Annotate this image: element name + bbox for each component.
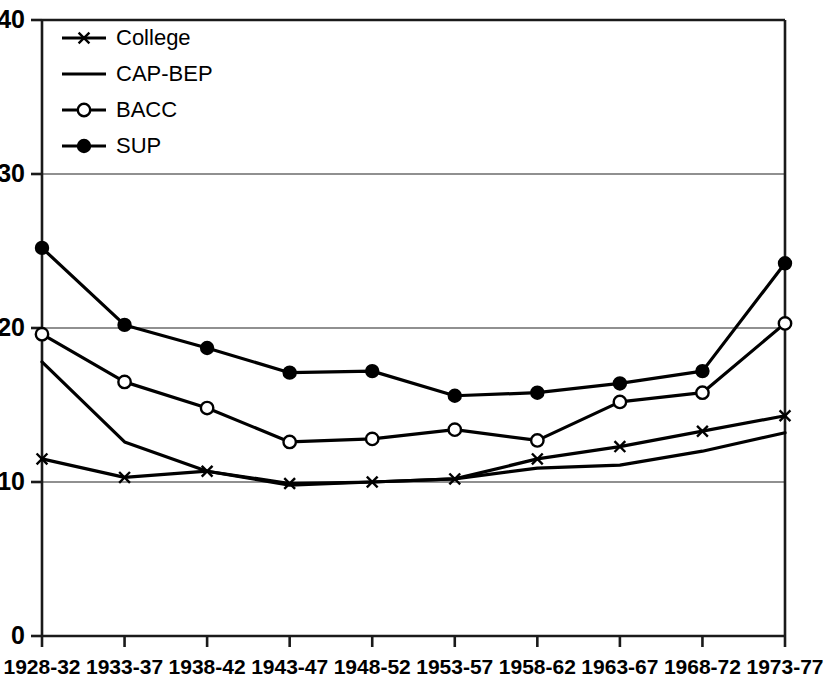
- x-tick-label-6: 1958-62: [499, 655, 576, 678]
- data-point-1: [118, 319, 130, 331]
- x-tick-label-0: 1928-32: [3, 655, 80, 678]
- data-point-4: [366, 433, 378, 445]
- legend-label: CAP-BEP: [116, 61, 213, 86]
- data-point-1: [118, 376, 130, 388]
- x-tick-label-9: 1973-77: [746, 655, 823, 678]
- x-tick-label-5: 1953-57: [416, 655, 493, 678]
- data-point-3: [283, 436, 295, 448]
- legend-label: College: [116, 25, 191, 50]
- data-point-5: [449, 390, 461, 402]
- line-chart: 010203040 1928-321933-371938-421943-4719…: [0, 0, 824, 681]
- y-tick-label-20: 20: [0, 313, 25, 341]
- data-point-5: [449, 423, 461, 435]
- data-point-2: [201, 342, 213, 354]
- data-point-6: [531, 434, 543, 446]
- x-tick-label-1: 1933-37: [86, 655, 163, 678]
- data-point-0: [36, 328, 48, 340]
- y-tick-label-30: 30: [0, 159, 25, 187]
- data-point-8: [696, 386, 708, 398]
- data-point-9: [779, 257, 791, 269]
- x-tick-label-7: 1963-67: [581, 655, 658, 678]
- legend-marker: [78, 140, 90, 152]
- data-point-7: [614, 396, 626, 408]
- legend-label: SUP: [116, 133, 161, 158]
- data-point-9: [779, 317, 791, 329]
- data-point-4: [366, 365, 378, 377]
- x-tick-label-8: 1968-72: [664, 655, 741, 678]
- data-point-0: [36, 242, 48, 254]
- legend-marker: [78, 104, 90, 116]
- y-tick-label-0: 0: [11, 621, 25, 649]
- y-tick-label-40: 40: [0, 5, 25, 33]
- y-tick-label-10: 10: [0, 467, 25, 495]
- x-tick-label-4: 1948-52: [334, 655, 411, 678]
- data-point-8: [696, 365, 708, 377]
- data-point-6: [531, 386, 543, 398]
- x-tick-label-2: 1938-42: [169, 655, 246, 678]
- chart-canvas: 010203040 1928-321933-371938-421943-4719…: [0, 0, 824, 681]
- data-point-7: [614, 377, 626, 389]
- x-tick-label-3: 1943-47: [251, 655, 328, 678]
- data-point-3: [283, 366, 295, 378]
- data-point-2: [201, 402, 213, 414]
- legend-label: BACC: [116, 97, 177, 122]
